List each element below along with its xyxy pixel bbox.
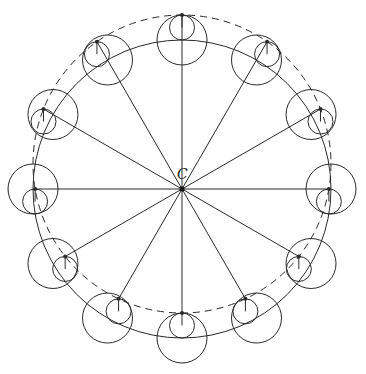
pivot-point <box>180 13 184 17</box>
radial-lines <box>35 15 329 313</box>
center-label: C <box>177 166 188 182</box>
radial-line <box>119 189 182 299</box>
radial-line <box>65 189 182 256</box>
pivot-point <box>33 187 37 191</box>
pivot-point <box>297 254 301 258</box>
pivot-point <box>180 311 184 315</box>
radial-line <box>182 42 267 189</box>
station <box>232 35 282 85</box>
pivot-point <box>95 40 99 44</box>
radial-line <box>182 109 320 189</box>
pivot-point <box>327 187 331 191</box>
center-point <box>180 187 185 192</box>
pivot-point <box>243 297 247 301</box>
station <box>232 293 282 343</box>
radial-line <box>182 189 299 256</box>
pivot-point <box>63 254 67 258</box>
pivot-point <box>318 107 322 111</box>
radial-line <box>44 109 182 189</box>
radial-line <box>97 42 182 189</box>
pivot-point <box>42 107 46 111</box>
station <box>83 293 133 343</box>
circle-diagram: C <box>0 0 366 374</box>
pivot-point <box>265 40 269 44</box>
radial-line <box>182 189 245 299</box>
pivot-point <box>117 297 121 301</box>
station <box>83 35 133 85</box>
